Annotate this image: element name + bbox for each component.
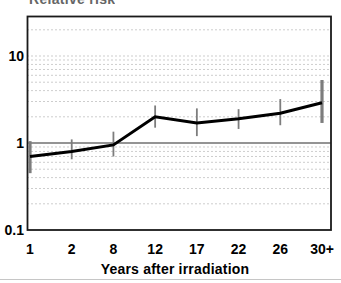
x-tick-label-8: 8 bbox=[110, 241, 118, 257]
plot-border bbox=[28, 17, 332, 231]
y-tick-label-1: 1 bbox=[16, 135, 24, 151]
x-tick-label-26: 26 bbox=[272, 241, 288, 257]
x-tick-label-12: 12 bbox=[147, 241, 163, 257]
figure-relative-risk-chart: Relative risk 1010.11281217222630+Years … bbox=[0, 0, 341, 283]
chart-canvas: 1010.11281217222630+Years after irradiat… bbox=[0, 0, 341, 283]
y-tick-label-10: 10 bbox=[8, 48, 24, 64]
x-tick-label-30+: 30+ bbox=[310, 241, 334, 257]
y-tick-label-0.1: 0.1 bbox=[5, 222, 25, 238]
scan-artifact-line bbox=[0, 279, 341, 280]
x-tick-label-22: 22 bbox=[231, 241, 247, 257]
x-tick-label-1: 1 bbox=[26, 241, 34, 257]
x-tick-label-17: 17 bbox=[189, 241, 205, 257]
data-line bbox=[30, 103, 322, 157]
x-tick-label-2: 2 bbox=[68, 241, 76, 257]
x-axis-title: Years after irradiation bbox=[101, 261, 250, 277]
